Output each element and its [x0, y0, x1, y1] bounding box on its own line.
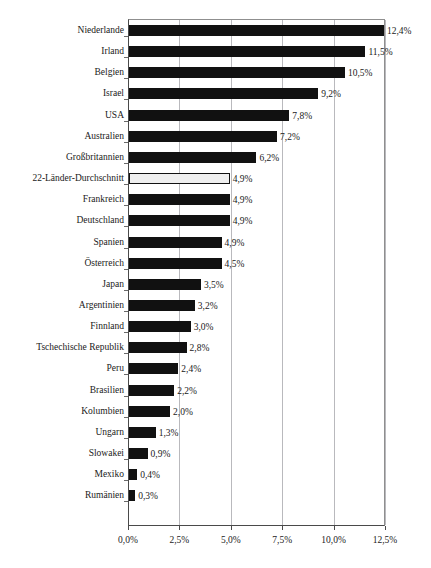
bar-chart: NiederlandeIrlandBelgienIsraelUSAAustral…: [0, 0, 431, 568]
bar-value-label: 4,5%: [225, 259, 245, 270]
category-label: Großbritannien: [0, 152, 124, 163]
category-label: Mexiko: [0, 469, 124, 480]
bar-value-label: 2,8%: [190, 343, 210, 354]
category-label: 22-Länder-Durchschnitt: [0, 173, 124, 184]
bar: [129, 321, 191, 332]
x-axis-tick: [231, 526, 232, 530]
y-axis-tick: [124, 396, 128, 397]
x-axis-tick-labels: 0,0%2,5%5,0%7,5%10,0%12,5%: [0, 534, 431, 550]
category-label: Ungarn: [0, 427, 124, 438]
category-label: Niederlande: [0, 25, 124, 36]
bar-value-label: 12,4%: [387, 26, 412, 37]
chart-title: [0, 0, 431, 4]
bar: [129, 427, 156, 438]
bar-value-label: 3,2%: [198, 301, 218, 312]
y-axis-tick: [124, 226, 128, 227]
y-axis-tick: [124, 78, 128, 79]
bar: [129, 67, 345, 78]
bar-value-label: 10,5%: [348, 68, 373, 79]
category-label: Deutschland: [0, 215, 124, 226]
bar: [129, 215, 230, 226]
x-axis-tick: [282, 526, 283, 530]
bar: [129, 342, 187, 353]
bar-value-label: 6,2%: [259, 153, 279, 164]
bar-average: [129, 173, 230, 184]
bar: [129, 152, 256, 163]
bar: [129, 131, 277, 142]
category-label: Belgien: [0, 67, 124, 78]
bar-value-label: 4,9%: [233, 195, 253, 206]
bar: [129, 385, 174, 396]
bar: [129, 469, 137, 480]
bar: [129, 363, 178, 374]
y-axis-tick: [124, 269, 128, 270]
category-label: Israel: [0, 88, 124, 99]
bar-value-label: 7,8%: [292, 111, 312, 122]
bar: [129, 237, 222, 248]
x-axis-tick-label: 0,0%: [118, 534, 138, 546]
bar: [129, 490, 135, 501]
x-axis-tick: [334, 526, 335, 530]
bar-value-label: 0,4%: [140, 470, 160, 481]
category-label: Brasilien: [0, 385, 124, 396]
y-axis-tick: [124, 290, 128, 291]
bars-layer: 12,4%11,5%10,5%9,2%7,8%7,2%6,2%4,9%4,9%4…: [129, 20, 431, 525]
bar-value-label: 9,2%: [321, 89, 341, 100]
bar: [129, 46, 365, 57]
category-label: Finnland: [0, 321, 124, 332]
category-label: Kolumbien: [0, 406, 124, 417]
bar-value-label: 4,9%: [233, 174, 253, 185]
bar: [129, 300, 195, 311]
bar: [129, 194, 230, 205]
category-label: Österreich: [0, 258, 124, 269]
x-axis-tick-label: 7,5%: [272, 534, 292, 546]
x-axis-tick-label: 12,5%: [373, 534, 398, 546]
category-label: Spanien: [0, 237, 124, 248]
y-axis-tick: [124, 184, 128, 185]
category-label: Peru: [0, 363, 124, 374]
category-label: Rumänien: [0, 490, 124, 501]
y-axis-tick: [124, 417, 128, 418]
y-axis-tick: [124, 501, 128, 502]
y-axis-tick: [124, 438, 128, 439]
category-label: Japan: [0, 279, 124, 290]
bar: [129, 110, 289, 121]
category-label: Australien: [0, 131, 124, 142]
category-label: Slowakei: [0, 448, 124, 459]
category-axis-labels: NiederlandeIrlandBelgienIsraelUSAAustral…: [0, 19, 124, 526]
y-axis-tick: [124, 36, 128, 37]
y-axis-tick: [124, 374, 128, 375]
bar: [129, 448, 148, 459]
y-axis-tick: [124, 480, 128, 481]
y-axis-tick: [124, 311, 128, 312]
bar-value-label: 4,9%: [233, 216, 253, 227]
bar-value-label: 2,0%: [173, 407, 193, 418]
bar-value-label: 2,4%: [181, 364, 201, 375]
y-axis-tick: [124, 353, 128, 354]
bar-value-label: 0,9%: [151, 449, 171, 460]
bar: [129, 406, 170, 417]
category-label: Tschechische Republik: [0, 342, 124, 353]
bar-value-label: 2,2%: [177, 386, 197, 397]
x-axis-tick: [128, 526, 129, 530]
bar-value-label: 7,2%: [280, 132, 300, 143]
bar-value-label: 0,3%: [138, 491, 158, 502]
bar-value-label: 4,9%: [225, 238, 245, 249]
bar-value-label: 1,3%: [159, 428, 179, 439]
x-axis-tick: [179, 526, 180, 530]
x-axis-tick-label: 5,0%: [221, 534, 241, 546]
y-axis-tick: [124, 248, 128, 249]
y-axis-tick: [124, 205, 128, 206]
y-axis-tick: [124, 121, 128, 122]
bar-value-label: 3,0%: [194, 322, 214, 333]
category-label: USA: [0, 110, 124, 121]
bar-value-label: 11,5%: [368, 47, 392, 58]
bar: [129, 279, 201, 290]
bar: [129, 25, 384, 36]
category-label: Irland: [0, 46, 124, 57]
x-axis-tick-label: 2,5%: [169, 534, 189, 546]
bar: [129, 88, 318, 99]
y-axis-tick: [124, 459, 128, 460]
y-axis-tick: [124, 142, 128, 143]
y-axis-tick: [124, 163, 128, 164]
